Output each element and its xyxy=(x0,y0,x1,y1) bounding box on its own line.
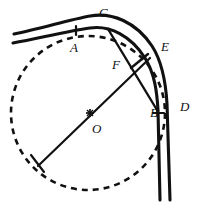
geometry-diagram-svg xyxy=(0,0,201,210)
label-A: A xyxy=(70,41,78,54)
label-O: O xyxy=(92,122,101,135)
label-E: E xyxy=(161,40,169,53)
radius-line xyxy=(38,58,150,166)
label-C: C xyxy=(99,6,108,19)
label-B: B xyxy=(150,106,158,119)
geometry-figure: C A E F D B O xyxy=(0,0,201,210)
centre-mark-O xyxy=(86,109,94,117)
label-D: D xyxy=(180,100,189,113)
label-F: F xyxy=(112,58,120,71)
outer-band-curve xyxy=(14,15,170,200)
